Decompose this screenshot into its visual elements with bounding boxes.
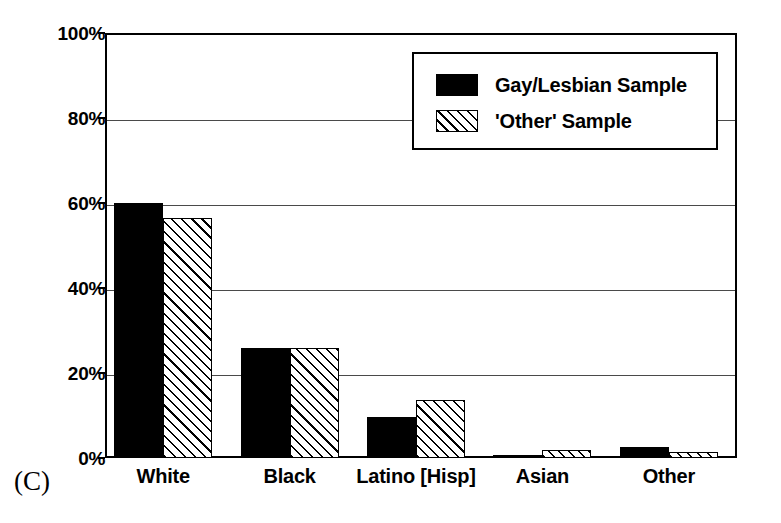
y-tick-label: 20% bbox=[39, 364, 105, 383]
y-tick-label: 40% bbox=[39, 279, 105, 298]
y-axis: 0%20%40%60%80%100% bbox=[25, 0, 105, 523]
legend-item-gay-lesbian-sample: Gay/Lesbian Sample bbox=[436, 68, 716, 102]
x-tick-label: Asian bbox=[516, 466, 569, 486]
y-tick-mark bbox=[98, 202, 105, 204]
legend-swatch-solid-icon bbox=[436, 74, 478, 96]
gridline bbox=[107, 375, 735, 376]
y-tick-label: 0% bbox=[39, 449, 105, 468]
x-tick-label: Black bbox=[263, 466, 315, 486]
y-tick-mark bbox=[98, 457, 105, 459]
y-tick-label: 60% bbox=[39, 194, 105, 213]
bar-chart-figure: 0%20%40%60%80%100% WhiteBlackLatino [His… bbox=[0, 0, 781, 523]
x-tick-label: White bbox=[136, 466, 189, 486]
y-tick-mark bbox=[98, 117, 105, 119]
y-tick-label: 100% bbox=[39, 24, 105, 43]
gridline bbox=[107, 205, 735, 206]
y-tick-label: 80% bbox=[39, 109, 105, 128]
y-tick-mark bbox=[98, 287, 105, 289]
y-tick-mark bbox=[98, 32, 105, 34]
legend-item-other-sample: 'Other' Sample bbox=[436, 104, 716, 138]
x-tick-label: Latino [Hisp] bbox=[356, 466, 476, 486]
y-tick-mark bbox=[98, 372, 105, 374]
legend-swatch-hatch-icon bbox=[436, 110, 478, 132]
legend-label-other-sample: 'Other' Sample bbox=[495, 110, 632, 133]
legend-label-gay-lesbian-sample: Gay/Lesbian Sample bbox=[495, 74, 687, 97]
chart-legend: Gay/Lesbian Sample 'Other' Sample bbox=[412, 52, 718, 150]
gridline bbox=[107, 290, 735, 291]
x-tick-label: Other bbox=[643, 466, 695, 486]
panel-label: (C) bbox=[14, 468, 50, 495]
